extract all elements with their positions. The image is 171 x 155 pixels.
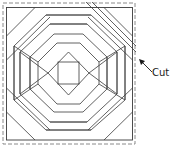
arrow-icon [139,59,152,72]
block-outline [7,8,133,141]
block-strips [7,8,133,141]
cut-label: Cut [152,67,169,78]
pineapple-quilt-block-diagram [0,0,171,155]
